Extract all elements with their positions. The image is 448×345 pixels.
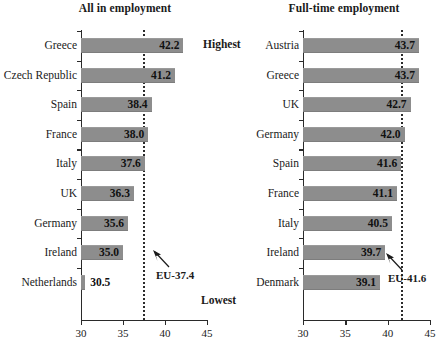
x-axis-tick xyxy=(388,321,389,325)
chart-title-right: Full-time employment xyxy=(232,2,448,14)
x-axis-tick xyxy=(303,321,304,325)
category-label: Greece xyxy=(0,38,77,53)
y-axis-tick xyxy=(77,209,81,210)
x-axis-tick xyxy=(345,321,346,325)
bar-value-label: 39.1 xyxy=(303,275,376,290)
bar-value-label: 30.5 xyxy=(90,275,110,290)
x-axis-line xyxy=(303,320,431,321)
x-axis-tick-label: 30 xyxy=(66,327,96,339)
bar-value-label: 41.6 xyxy=(303,156,397,171)
y-axis-tick xyxy=(299,31,303,32)
bar-value-label: 42.7 xyxy=(303,97,407,112)
eu-pointer-arrow-icon xyxy=(383,252,405,272)
y-axis-tick xyxy=(77,238,81,239)
y-axis-tick xyxy=(299,179,303,180)
bar-value-label: 38.4 xyxy=(81,97,148,112)
category-label: Germany xyxy=(0,216,77,231)
category-label: UK xyxy=(0,186,77,201)
bar-value-label: 43.7 xyxy=(303,68,415,83)
y-axis-tick xyxy=(77,31,81,32)
category-label: Italy xyxy=(0,156,77,171)
y-axis-tick xyxy=(299,120,303,121)
x-axis-tick-label: 30 xyxy=(288,327,318,339)
y-axis-tick xyxy=(77,149,81,150)
y-axis-tick xyxy=(299,209,303,210)
bar-value-label: 42.2 xyxy=(81,38,179,53)
bar-value-label: 38.0 xyxy=(81,127,144,142)
y-axis-tick xyxy=(77,120,81,121)
x-axis-tick-label: 40 xyxy=(150,327,180,339)
category-label: France xyxy=(179,186,299,201)
y-axis-tick xyxy=(299,61,303,62)
x-axis-tick xyxy=(165,321,166,325)
x-axis-tick-label: 45 xyxy=(192,327,222,339)
chart-panel-full-time-employment: Full-time employment Austria43.7Greece43… xyxy=(224,0,448,345)
bar-value-label: 35.0 xyxy=(81,245,119,260)
eu-pointer-arrow-icon xyxy=(150,249,172,269)
x-axis-tick xyxy=(81,321,82,325)
category-label: Ireland xyxy=(0,245,77,260)
category-label: Netherlands xyxy=(0,275,77,290)
x-axis-tick-label: 35 xyxy=(108,327,138,339)
y-axis-tick xyxy=(299,90,303,91)
x-axis-tick-label: 35 xyxy=(330,327,360,339)
category-label: France xyxy=(0,127,77,142)
category-label: Denmark xyxy=(179,275,299,290)
y-axis-tick xyxy=(299,238,303,239)
x-axis-tick-label: 40 xyxy=(373,327,403,339)
category-label: Ireland xyxy=(179,245,299,260)
x-axis-line xyxy=(81,320,208,321)
category-label: Greece xyxy=(179,68,299,83)
category-label: Spain xyxy=(0,97,77,112)
y-axis-tick xyxy=(77,61,81,62)
bar-value-label: 41.1 xyxy=(303,186,393,201)
y-axis-tick xyxy=(299,149,303,150)
bar xyxy=(81,275,85,290)
y-axis-tick xyxy=(77,90,81,91)
bar-value-label: 37.6 xyxy=(81,156,141,171)
x-axis-tick xyxy=(430,321,431,325)
category-label: Spain xyxy=(179,156,299,171)
eu-reference-label: EU-41.6 xyxy=(388,272,426,284)
category-label: Germany xyxy=(179,127,299,142)
bar-value-label: 41.2 xyxy=(81,68,171,83)
x-axis-tick xyxy=(123,321,124,325)
bar-value-label: 42.0 xyxy=(303,127,401,142)
chart-title-left: All in employment xyxy=(13,2,237,14)
bar-value-label: 39.7 xyxy=(303,245,381,260)
annotation-lowest: Lowest xyxy=(201,294,236,306)
bar-value-label: 43.7 xyxy=(303,38,415,53)
y-axis-tick xyxy=(77,268,81,269)
x-axis-tick-label: 45 xyxy=(415,327,445,339)
category-label: Italy xyxy=(179,216,299,231)
category-label: UK xyxy=(179,97,299,112)
bar-value-label: 35.6 xyxy=(81,216,124,231)
annotation-highest: Highest xyxy=(203,38,241,50)
y-axis-tick xyxy=(77,179,81,180)
bar-value-label: 40.5 xyxy=(303,216,388,231)
bar-value-label: 36.3 xyxy=(81,186,130,201)
category-label: Czech Republic xyxy=(0,68,77,83)
y-axis-tick xyxy=(299,268,303,269)
x-axis-tick xyxy=(207,321,208,325)
